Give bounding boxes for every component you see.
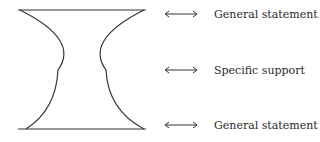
right-curve: [100, 10, 144, 129]
hourglass-shape: [0, 0, 160, 142]
label-general-statement-top: General statement: [214, 8, 318, 21]
double-arrow-icon: [163, 65, 199, 75]
double-arrow-icon: [163, 9, 199, 19]
double-arrow-icon: [163, 120, 199, 130]
label-general-statement-bottom: General statement: [214, 119, 318, 132]
row-general-bottom: General statement: [160, 115, 318, 135]
label-specific-support: Specific support: [214, 64, 305, 77]
left-curve: [20, 10, 64, 129]
row-specific-support: Specific support: [160, 60, 305, 80]
row-general-top: General statement: [160, 4, 318, 24]
